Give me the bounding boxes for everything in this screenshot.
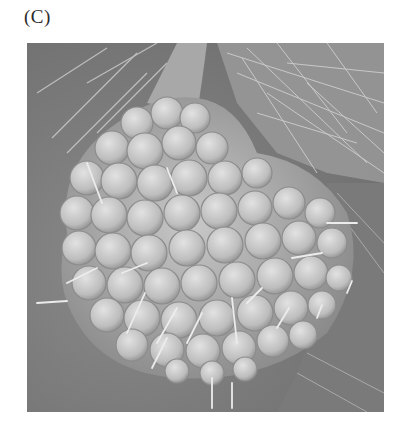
sem-micrograph xyxy=(27,43,384,412)
panel-label: (C) xyxy=(24,6,51,28)
micrograph-illustration xyxy=(27,43,384,412)
